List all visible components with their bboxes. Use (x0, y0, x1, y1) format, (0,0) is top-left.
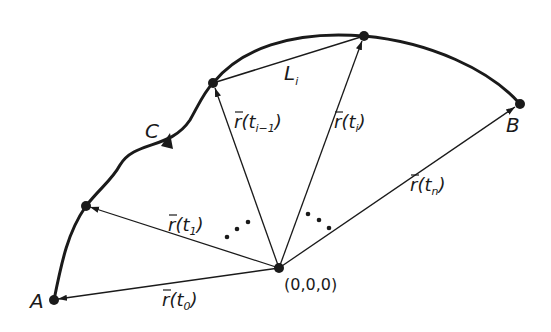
svg-text:r(tn): r(tn) (410, 174, 446, 198)
ellipsis-dot (317, 218, 322, 223)
point-t1 (81, 201, 91, 211)
svg-text:r(t0): r(t0) (162, 289, 198, 313)
ellipsis-dot (225, 235, 230, 240)
label-a: A (28, 289, 44, 313)
label-c: C (145, 119, 159, 143)
label-r-ti: r(ti) (334, 111, 366, 135)
ellipsis-dot (246, 220, 251, 225)
svg-text:r(ti−1): r(ti−1) (234, 111, 282, 135)
ellipsis-dot (327, 226, 332, 231)
label-origin: (0,0,0) (284, 275, 337, 294)
point-ti (359, 31, 369, 41)
label-b: B (506, 113, 520, 137)
svg-text:r(t1): r(t1) (168, 214, 204, 238)
label-r-t1: r(t1) (168, 214, 204, 238)
point-ti-1 (208, 78, 218, 88)
label-r-t0: r(t0) (162, 289, 198, 313)
label-chord: Li (284, 61, 298, 88)
point-origin (274, 263, 284, 273)
point-b (515, 99, 525, 109)
ellipsis-dot (306, 212, 311, 217)
label-r-ti-1: r(ti−1) (234, 111, 282, 135)
point-a (49, 295, 59, 305)
svg-text:r(ti): r(ti) (334, 111, 366, 135)
curve-arc-length-diagram: A B C (0,0,0) Li r(t0) r(t1) r(ti−1) r(t… (0, 0, 551, 332)
vector-r-tn (279, 107, 515, 268)
label-r-tn: r(tn) (410, 174, 446, 198)
ellipsis-dot (235, 227, 240, 232)
